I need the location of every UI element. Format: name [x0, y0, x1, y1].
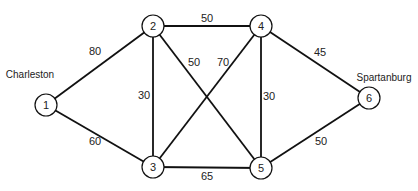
city-labels-layer: CharlestonSpartanburg [6, 69, 412, 83]
edge-weight-3-5: 65 [201, 170, 213, 182]
edge-4-6 [261, 26, 369, 98]
edge-weight-1-2: 80 [89, 45, 101, 57]
node-1: 1 [35, 94, 57, 116]
edge-weight-1-3: 60 [89, 135, 101, 147]
city-label-spartanburg: Spartanburg [356, 72, 411, 83]
network-diagram: 80605030507030456550 123456 CharlestonSp… [0, 0, 418, 191]
city-label-charleston: Charleston [6, 69, 54, 80]
edge-weight-2-5: 50 [188, 56, 200, 68]
edge-5-6 [261, 98, 369, 168]
node-4: 4 [250, 15, 272, 37]
node-label: 2 [150, 20, 156, 32]
edge-3-5 [153, 167, 261, 168]
edge-weight-4-5: 30 [263, 90, 275, 102]
edge-weight-2-3: 30 [138, 89, 150, 101]
edge-weight-2-4: 50 [201, 12, 213, 24]
edge-weight-4-3: 70 [217, 56, 229, 68]
node-5: 5 [250, 157, 272, 179]
node-label: 5 [258, 162, 264, 174]
edge-weight-4-6: 45 [314, 46, 326, 58]
node-label: 4 [258, 20, 264, 32]
node-3: 3 [142, 156, 164, 178]
node-label: 6 [366, 92, 372, 104]
node-label: 1 [43, 99, 49, 111]
node-2: 2 [142, 15, 164, 37]
edge-weight-5-6: 50 [315, 135, 327, 147]
node-6: 6 [358, 87, 380, 109]
node-label: 3 [150, 161, 156, 173]
